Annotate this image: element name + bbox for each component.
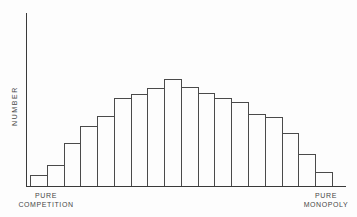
bar [97,116,115,186]
bar [265,117,283,186]
x-axis-line [26,186,346,187]
bar [298,154,316,186]
bar [47,165,65,186]
y-axis-line [26,13,27,187]
bar [30,175,48,186]
bar [231,102,249,186]
x-label-pure-competition: PURE COMPETITION [18,191,73,209]
bar [147,88,165,186]
bar [80,126,98,186]
x-label-line-1: PURE [304,191,349,200]
bar [248,114,266,186]
bar [114,98,132,186]
x-label-line-2: MONOPOLY [304,200,349,209]
bar [181,87,199,186]
x-label-pure-monopoly: PURE MONOPOLY [304,191,349,209]
bar [315,172,333,186]
bar [214,98,232,186]
market-structure-histogram: NUMBER PURE COMPETITION PURE MONOPOLY [0,0,357,217]
x-label-line-2: COMPETITION [18,200,73,209]
bar [282,133,299,186]
x-label-line-1: PURE [18,191,73,200]
y-axis-label: NUMBER [11,86,18,126]
bar [64,143,81,186]
bar [164,79,182,186]
bar [131,94,148,186]
bar [198,93,215,186]
